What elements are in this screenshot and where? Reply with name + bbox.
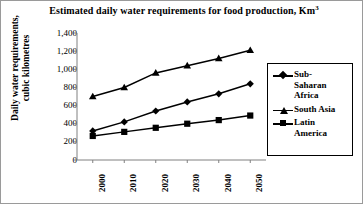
x-axis-tick-label: 2040 [223,174,233,192]
data-point-diamond-marker [184,98,191,105]
x-axis-tick-label: 2010 [128,174,138,192]
data-point-square-marker [90,133,96,139]
legend-key-marker [279,71,287,79]
data-point-square-marker [247,112,253,118]
legend-square-icon [272,118,294,129]
x-axis-tick-label: 2000 [97,174,107,192]
series-line [93,50,251,96]
legend-item[interactable]: Latin America [272,117,352,138]
data-point-diamond-marker [247,80,254,87]
series-south-asia [89,46,254,99]
legend-item-label: Latin America [294,117,327,138]
series-line [93,116,251,136]
legend-item[interactable]: South Asia [272,104,352,116]
series-line [93,84,251,131]
legend-key-marker [280,120,286,126]
x-axis-tick-label: 2050 [254,174,264,192]
legend-item-label: Sub- Saharan Africa [294,69,327,101]
legend-diamond-icon [272,70,294,81]
data-point-square-marker [121,129,127,135]
legend-key-marker [280,107,288,114]
x-axis-tick-label: 2020 [160,174,170,192]
data-point-diamond-marker [121,118,128,125]
data-point-square-marker [216,117,222,123]
data-point-triangle-marker [246,46,254,53]
chart-figure: Estimated daily water requirements for f… [0,0,363,204]
legend-item-label: South Asia [294,104,335,115]
data-point-diamond-marker [152,107,159,114]
legend-triangle-icon [272,105,294,116]
x-axis-tick-label: 2030 [191,174,201,192]
legend-item[interactable]: Sub- Saharan Africa [272,69,352,101]
data-point-diamond-marker [215,90,222,97]
chart-legend: Sub- Saharan AfricaSouth AsiaLatin Ameri… [267,63,353,156]
data-point-square-marker [153,125,159,131]
data-point-square-marker [184,121,190,127]
series-latin-america [90,112,254,139]
